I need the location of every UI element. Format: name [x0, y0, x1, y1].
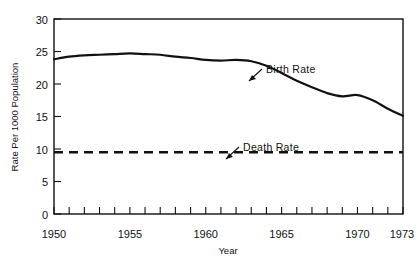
x-tick-label: 1973	[390, 228, 414, 240]
y-tick-label: 10	[36, 144, 48, 156]
x-tick-label: 1965	[269, 228, 293, 240]
chart-container: 30 25 20 15 10 5 0 Rate Per 1000 Populat…	[0, 0, 420, 264]
y-tick-label: 25	[36, 46, 48, 58]
y-axis-ticks	[54, 19, 61, 214]
y-tick-label: 0	[42, 209, 48, 221]
death-rate-label: Death Rate	[243, 141, 299, 153]
birth-and-death-rate-line-chart: 30 25 20 15 10 5 0 Rate Per 1000 Populat…	[0, 0, 420, 264]
birth-rate-label: Birth Rate	[266, 63, 316, 75]
y-axis-tick-labels: 30 25 20 15 10 5 0	[36, 14, 48, 221]
y-tick-label: 15	[36, 111, 48, 123]
y-tick-label: 30	[36, 14, 48, 26]
y-tick-label: 20	[36, 79, 48, 91]
x-axis-title: Year	[218, 245, 237, 256]
annotation-death-rate: Death Rate	[226, 141, 299, 159]
x-axis-tick-labels: 1950 1955 1960 1965 1970 1973	[42, 228, 414, 240]
series-line-birth-rate	[54, 53, 403, 115]
x-tick-label: 1950	[42, 228, 66, 240]
annotation-birth-rate: Birth Rate	[249, 63, 316, 81]
y-axis-title: Rate Per 1000 Population	[9, 63, 20, 172]
x-axis-ticks	[54, 207, 403, 214]
x-tick-label: 1960	[193, 228, 217, 240]
x-tick-label: 1970	[345, 228, 369, 240]
plot-frame	[54, 19, 403, 214]
x-tick-label: 1955	[118, 228, 142, 240]
y-tick-label: 5	[42, 176, 48, 188]
